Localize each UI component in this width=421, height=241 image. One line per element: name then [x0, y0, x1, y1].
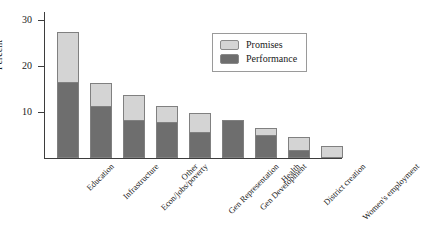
- bar-segment-performance: [189, 132, 211, 158]
- x-axis-label: Women's employment: [361, 162, 421, 222]
- chart-legend: Promises Performance: [212, 33, 307, 72]
- bar-group: [255, 128, 277, 158]
- legend-label-performance: Performance: [246, 54, 297, 64]
- legend-label-promises: Promises: [246, 40, 283, 50]
- bar-segment-performance: [255, 135, 277, 158]
- bar-segment-performance: [222, 120, 244, 158]
- bar-group: [156, 106, 178, 158]
- legend-item: Promises: [220, 38, 297, 52]
- bar-group: [189, 113, 211, 158]
- bar-group: [222, 120, 244, 158]
- bar-group: [90, 83, 112, 158]
- bar-segment-promises: [255, 128, 277, 135]
- bar-segment-performance: [123, 120, 145, 158]
- bar-segment-promises: [321, 146, 343, 158]
- bar-group: [321, 146, 343, 158]
- bar-segment-performance: [57, 82, 79, 158]
- bar-segment-promises: [189, 113, 211, 132]
- bar-segment-promises: [57, 32, 79, 82]
- legend-swatch-performance: [220, 54, 239, 64]
- bar-segment-promises: [123, 95, 145, 121]
- bar-segment-promises: [156, 106, 178, 122]
- bar-segment-promises: [288, 137, 310, 150]
- legend-swatch-promises: [220, 40, 239, 50]
- bar-segment-performance: [156, 122, 178, 158]
- legend-item: Performance: [220, 52, 297, 66]
- bar-segment-promises: [90, 83, 112, 106]
- bar-segment-performance: [90, 106, 112, 158]
- bar-group: [57, 32, 79, 158]
- bar-group: [123, 95, 145, 158]
- bar-group: [288, 137, 310, 158]
- bar-segment-performance: [288, 150, 310, 158]
